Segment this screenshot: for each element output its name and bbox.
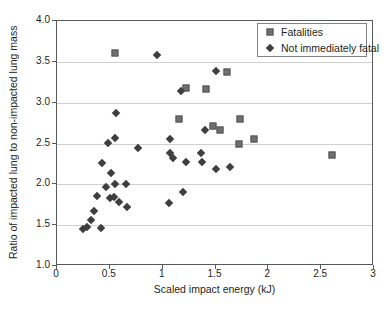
y-tick-label: 2.0 xyxy=(18,177,50,189)
data-point-not-immediately-fatal xyxy=(134,143,142,151)
data-point-fatalities xyxy=(203,85,210,92)
y-tick-label: 1.0 xyxy=(18,259,50,271)
legend-label: Not immediately fatal xyxy=(281,42,379,55)
scatter-chart-figure: Ratio of impacted lung to non-impacted l… xyxy=(0,0,389,316)
data-point-not-immediately-fatal xyxy=(201,126,209,134)
y-tick-label: 2.5 xyxy=(18,137,50,149)
data-point-not-immediately-fatal xyxy=(182,157,190,165)
y-tick-label: 4.0 xyxy=(18,14,50,26)
x-tick-label: 1 xyxy=(159,268,165,280)
data-point-fatalities xyxy=(175,116,182,123)
y-tick-label: 1.5 xyxy=(18,218,50,230)
data-point-not-immediately-fatal xyxy=(111,180,119,188)
data-point-fatalities xyxy=(250,135,257,142)
data-point-fatalities xyxy=(328,151,335,158)
data-point-not-immediately-fatal xyxy=(121,180,129,188)
y-tick xyxy=(52,102,56,103)
legend-label: Fatalities xyxy=(281,26,323,39)
data-point-fatalities xyxy=(112,49,119,56)
x-tick-label: 3 xyxy=(370,268,376,280)
legend-item-not-immediately-fatal: Not immediately fatal xyxy=(265,41,366,55)
data-point-not-immediately-fatal xyxy=(198,158,206,166)
x-tick-label: 2.5 xyxy=(313,268,327,280)
y-tick xyxy=(52,20,56,21)
data-point-not-immediately-fatal xyxy=(196,149,204,157)
data-point-fatalities xyxy=(236,116,243,123)
x-tick-label: 1.5 xyxy=(208,268,222,280)
y-tick xyxy=(52,224,56,225)
data-point-not-immediately-fatal xyxy=(169,154,177,162)
legend-item-fatalities: Fatalities xyxy=(265,25,366,39)
gridline xyxy=(57,62,372,63)
data-point-fatalities xyxy=(224,68,231,75)
data-point-not-immediately-fatal xyxy=(90,206,98,214)
x-tick-label: 0 xyxy=(53,268,59,280)
data-point-not-immediately-fatal xyxy=(211,67,219,75)
data-point-not-immediately-fatal xyxy=(211,165,219,173)
data-point-not-immediately-fatal xyxy=(166,135,174,143)
data-point-not-immediately-fatal xyxy=(153,51,161,59)
data-point-not-immediately-fatal xyxy=(112,109,120,117)
y-tick-label: 3.5 xyxy=(18,55,50,67)
x-tick-label: 0.5 xyxy=(102,268,116,280)
data-point-not-immediately-fatal xyxy=(98,159,106,167)
data-point-not-immediately-fatal xyxy=(178,187,186,195)
data-point-not-immediately-fatal xyxy=(103,138,111,146)
data-point-not-immediately-fatal xyxy=(111,134,119,142)
y-tick-label: 3.0 xyxy=(18,96,50,108)
data-point-not-immediately-fatal xyxy=(165,199,173,207)
square-marker-icon xyxy=(265,28,274,37)
data-point-not-immediately-fatal xyxy=(93,192,101,200)
data-point-fatalities xyxy=(235,140,242,147)
y-tick xyxy=(52,61,56,62)
x-axis-title: Scaled impact energy (kJ) xyxy=(56,283,373,295)
y-tick xyxy=(52,143,56,144)
gridline xyxy=(57,103,372,104)
data-point-not-immediately-fatal xyxy=(115,198,123,206)
data-point-not-immediately-fatal xyxy=(122,203,130,211)
x-tick-label: 2 xyxy=(265,268,271,280)
diamond-marker-icon xyxy=(265,44,274,53)
y-tick xyxy=(52,183,56,184)
y-tick xyxy=(52,265,56,266)
data-point-not-immediately-fatal xyxy=(226,163,234,171)
chart-legend: Fatalities Not immediately fatal xyxy=(257,23,367,57)
data-point-not-immediately-fatal xyxy=(107,169,115,177)
data-point-fatalities xyxy=(216,127,223,134)
